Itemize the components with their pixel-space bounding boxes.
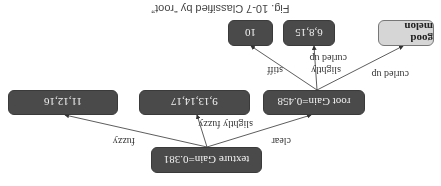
edge-label-curled-up: curled up [372,69,410,79]
edge-label-slightly-line2: curled up [310,53,348,63]
node-root: root Gain=0.458 [263,90,365,115]
leaf-slightly-fuzzy: 9,13,14,17 [139,90,250,115]
leaf-slightly-curled-label: 6,8,15 [295,27,323,39]
node-texture-label: texture Gain=0.381 [164,154,250,166]
edge-label-clear: clear [272,136,291,146]
leaf-slightly-curled: 6,8,15 [283,20,335,46]
edge-label-stiff: stiff [267,65,283,75]
edge-label-slightly-line1: slightly [311,65,341,75]
decision-tree-diagram: texture Gain=0.381 root Gain=0.458 9,13,… [0,0,441,186]
leaf-good-melon: good melon [378,20,434,46]
node-root-label: root Gain=0.458 [278,97,351,109]
figure-caption: Fig. 10-7 Classified by “root” [0,3,441,15]
leaf-good-melon-label: good melon [379,21,433,45]
leaf-stiff-label: 10 [245,27,256,39]
leaf-stiff: 10 [228,20,273,46]
edge-label-slightly-fuzzy: slightly fuzzy [198,119,253,129]
leaf-slightly-fuzzy-label: 9,13,14,17 [171,97,218,109]
leaf-fuzzy: 11,12,16 [8,90,118,115]
leaf-fuzzy-label: 11,12,16 [44,97,82,109]
node-texture: texture Gain=0.381 [151,147,262,173]
edge-label-fuzzy: fuzzy [113,136,135,146]
